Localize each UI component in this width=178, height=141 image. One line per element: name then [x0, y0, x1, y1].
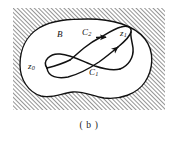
contour-label-c1: C1 — [89, 68, 98, 78]
point-label-z1: z1 — [120, 29, 127, 39]
figure-caption: ( b ) — [0, 120, 178, 130]
point-label-z0: z0 — [28, 62, 35, 72]
figure-b-container: B C2 C1 z1 z0 ( b ) — [0, 0, 178, 141]
region-label-b: B — [57, 30, 63, 39]
contour-label-c2: C2 — [82, 28, 91, 38]
